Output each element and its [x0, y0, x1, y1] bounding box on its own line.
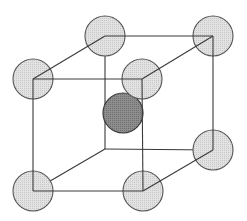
edge-bottom-right-depth — [143, 150, 213, 191]
body-center-atom — [103, 93, 143, 133]
bcc-unit-cell-diagram — [0, 0, 247, 221]
edge-top-right-depth — [142, 36, 213, 79]
edge-top-left-depth — [33, 36, 105, 79]
